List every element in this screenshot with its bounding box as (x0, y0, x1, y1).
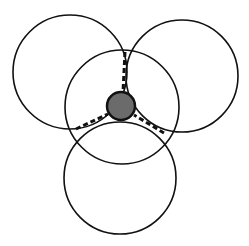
central-node (107, 92, 135, 120)
venn-diagram (0, 0, 249, 246)
